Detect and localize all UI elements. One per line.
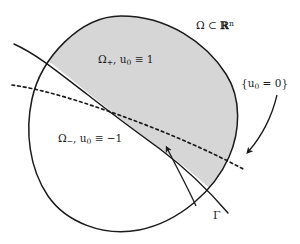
omega-minus-comma: , [73,132,80,144]
domain-reals-symbol: ℝ [220,19,229,31]
omega-minus-label: Ω−, u0 ≡ −1 [58,133,122,146]
omega-plus-comma: , [113,53,120,65]
figure-canvas [0,0,300,244]
domain-dimension-exponent: n [229,19,234,28]
zero-set-open-brace: { [241,77,248,89]
gamma-label: Γ [213,210,221,221]
zero-set-relation: = 0 [259,77,281,89]
omega-plus-label: Ω+, u0 ≡ 1 [98,54,153,67]
zero-set-label: {u0 = 0} [241,78,288,91]
omega-plus-symbol: Ω [98,53,107,65]
domain-omega-symbol: Ω [196,19,205,31]
omega-minus-symbol: Ω [58,132,67,144]
omega-minus-u-symbol: u [80,132,87,144]
zero-set-close-brace: } [281,77,288,89]
zero-set-pointer-arrow [248,95,277,152]
figure-container: Ω ⊂ ℝn Ω+, u0 ≡ 1 Ω−, u0 ≡ −1 {u0 = 0} Γ [0,0,300,244]
domain-label: Ω ⊂ ℝn [196,20,234,31]
omega-plus-u-symbol: u [120,53,127,65]
omega-minus-relation: ≡ −1 [91,132,122,144]
domain-subset-symbol: ⊂ [208,19,217,31]
omega-plus-relation: ≡ 1 [131,53,153,65]
